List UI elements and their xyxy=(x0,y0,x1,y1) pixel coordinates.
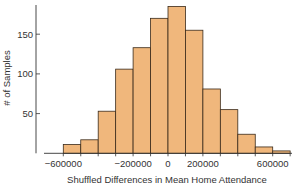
histogram-bar xyxy=(168,6,185,153)
x-tick-label: 200000 xyxy=(187,158,219,169)
histogram-bar xyxy=(238,134,255,153)
x-axis-label: Shuffled Differences in Mean Home Attend… xyxy=(67,174,267,185)
y-axis-label: # of Samples xyxy=(1,50,12,106)
histogram-bars xyxy=(63,6,290,153)
y-ticks: 50100150 xyxy=(17,29,40,119)
histogram-bar xyxy=(151,18,168,153)
x-tick-label: 0 xyxy=(165,158,170,169)
histogram-chart: 50100150 −600000−2000000200000600000 # o… xyxy=(0,0,295,187)
histogram-bar xyxy=(203,89,220,153)
histogram-bar xyxy=(185,30,202,153)
histogram-bar xyxy=(255,147,272,153)
histogram-bar xyxy=(220,110,237,154)
histogram-bar xyxy=(133,48,150,154)
y-tick-label: 150 xyxy=(17,29,33,40)
x-tick-label: −200000 xyxy=(114,158,151,169)
histogram-bar xyxy=(98,111,115,153)
y-tick-label: 50 xyxy=(22,108,33,119)
y-tick-label: 100 xyxy=(17,68,33,79)
x-ticks: −600000−2000000200000600000 xyxy=(45,153,290,169)
histogram-bar xyxy=(63,145,80,154)
x-tick-label: 600000 xyxy=(257,158,289,169)
histogram-bar xyxy=(81,140,98,153)
histogram-bar xyxy=(116,69,133,153)
x-tick-label: −600000 xyxy=(45,158,82,169)
